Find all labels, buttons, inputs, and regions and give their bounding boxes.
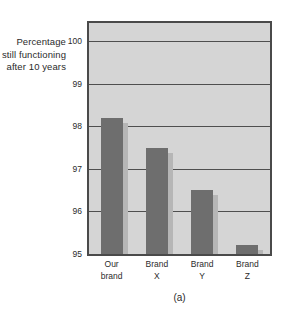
x-tick-1: Ourbrand bbox=[89, 258, 135, 282]
y-axis-label-line-3: after 10 years bbox=[2, 61, 66, 74]
bar-chart-figure: Percentagestill functioningafter 10 year… bbox=[0, 0, 284, 320]
y-tick-97: 97 bbox=[60, 164, 82, 174]
y-tick-98: 98 bbox=[60, 121, 82, 131]
y-tick-96: 96 bbox=[60, 206, 82, 216]
y-axis-label-line-1: Percentage bbox=[2, 36, 66, 49]
x-tick-4-line-1: Brand bbox=[224, 258, 270, 270]
x-tick-3-line-1: Brand bbox=[179, 258, 225, 270]
x-tick-3: BrandY bbox=[179, 258, 225, 282]
y-axis-label: Percentagestill functioningafter 10 year… bbox=[2, 36, 66, 74]
plot-inner bbox=[89, 23, 270, 254]
figure-caption: (a) bbox=[87, 292, 272, 303]
bar-2[interactable] bbox=[146, 148, 168, 255]
y-axis-label-line-2: still functioning bbox=[2, 49, 66, 62]
bar-3[interactable] bbox=[191, 190, 213, 254]
bar-4[interactable] bbox=[236, 245, 258, 254]
plot-area bbox=[87, 21, 272, 256]
y-tick-99: 99 bbox=[60, 79, 82, 89]
x-tick-2-line-1: Brand bbox=[134, 258, 180, 270]
x-tick-2-line-2: X bbox=[134, 270, 180, 282]
y-tick-100: 100 bbox=[60, 36, 82, 46]
x-tick-3-line-2: Y bbox=[179, 270, 225, 282]
gridline-100 bbox=[89, 41, 270, 42]
y-tick-95: 95 bbox=[60, 249, 82, 259]
x-tick-4-line-2: Z bbox=[224, 270, 270, 282]
x-axis-tick-labels: OurbrandBrandXBrandYBrandZ bbox=[87, 258, 272, 290]
x-tick-4: BrandZ bbox=[224, 258, 270, 282]
x-tick-1-line-1: Our bbox=[89, 258, 135, 270]
bar-1[interactable] bbox=[101, 118, 123, 254]
x-tick-1-line-2: brand bbox=[89, 270, 135, 282]
gridline-99 bbox=[89, 84, 270, 85]
y-axis-tick-labels: 1009998979695 bbox=[60, 21, 82, 256]
x-tick-2: BrandX bbox=[134, 258, 180, 282]
